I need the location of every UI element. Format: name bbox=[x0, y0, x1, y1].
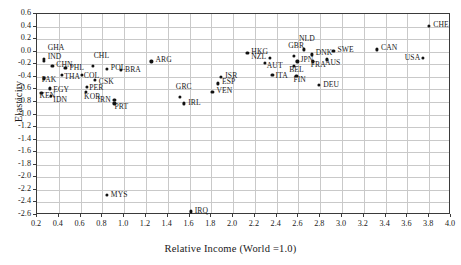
gridline-vertical bbox=[255, 14, 256, 213]
x-axis-tick-label: 1.0 bbox=[118, 219, 128, 229]
gridline-horizontal bbox=[37, 152, 449, 153]
gridline-vertical bbox=[211, 14, 212, 213]
x-axis-tick bbox=[189, 214, 190, 217]
gridline-vertical bbox=[342, 14, 343, 213]
x-axis-tick-label: 3.8 bbox=[423, 219, 433, 229]
data-point-label: CHL bbox=[94, 52, 110, 60]
gridline-horizontal bbox=[37, 115, 449, 116]
data-point-label: DNK bbox=[316, 49, 333, 57]
x-axis-tick bbox=[254, 214, 255, 217]
x-axis-tick-label: 1.8 bbox=[205, 219, 215, 229]
y-axis-tick bbox=[33, 76, 36, 77]
y-axis-tick-label: -1.0 bbox=[6, 109, 31, 119]
x-axis-tick-label: 0.4 bbox=[53, 219, 63, 229]
y-axis-tick-label: -1.8 bbox=[6, 159, 31, 169]
data-point-label: CHE bbox=[433, 21, 449, 29]
x-axis-tick bbox=[36, 214, 37, 217]
y-axis-tick-label: -0.6 bbox=[6, 83, 31, 93]
gridline-vertical bbox=[320, 14, 321, 213]
data-point-label: AUS bbox=[325, 59, 341, 67]
gridline-horizontal bbox=[37, 177, 449, 178]
x-axis-title: Relative Income (World =1.0) bbox=[0, 243, 461, 254]
gridline-horizontal bbox=[37, 127, 449, 128]
data-point-label: PHL bbox=[69, 64, 84, 72]
y-axis-tick bbox=[33, 151, 36, 152]
data-point-label: MYS bbox=[111, 191, 128, 199]
y-axis-tick bbox=[33, 139, 36, 140]
gridline-horizontal bbox=[37, 140, 449, 141]
x-axis-tick-label: 2.6 bbox=[292, 219, 302, 229]
data-point-label: NLD bbox=[299, 35, 315, 43]
x-axis-tick-label: 3.4 bbox=[380, 219, 390, 229]
data-point-label: ESP bbox=[222, 78, 235, 86]
data-point-label: NZL bbox=[251, 53, 266, 61]
x-axis-tick bbox=[406, 214, 407, 217]
data-point-label: IRN bbox=[97, 96, 110, 104]
gridline-vertical bbox=[233, 14, 234, 213]
y-axis-tick bbox=[33, 164, 36, 165]
gridline-horizontal bbox=[37, 39, 449, 40]
x-axis-tick bbox=[363, 214, 364, 217]
y-axis-tick bbox=[33, 176, 36, 177]
data-point-label: BEL bbox=[289, 66, 304, 74]
data-point-label: POL bbox=[111, 64, 126, 72]
gridline-horizontal bbox=[37, 190, 449, 191]
x-axis-tick-label: 4.0 bbox=[445, 219, 455, 229]
x-axis-tick-label: 0.2 bbox=[31, 219, 41, 229]
data-point-label: SWE bbox=[337, 46, 353, 54]
data-point-label: GRC bbox=[176, 83, 192, 91]
y-axis-tick-label: 0.2 bbox=[6, 33, 31, 43]
gridline-vertical bbox=[190, 14, 191, 213]
x-axis-tick-label: 2.2 bbox=[249, 219, 259, 229]
gridline-vertical bbox=[168, 14, 169, 213]
gridline-horizontal bbox=[37, 27, 449, 28]
gridline-horizontal bbox=[37, 64, 449, 65]
gridline-vertical bbox=[277, 14, 278, 213]
y-axis-tick bbox=[33, 88, 36, 89]
y-axis-tick-label: -2.0 bbox=[6, 171, 31, 181]
y-axis-tick bbox=[33, 26, 36, 27]
data-point-label: ITA bbox=[275, 72, 287, 80]
gridline-horizontal bbox=[37, 202, 449, 203]
gridline-vertical bbox=[429, 14, 430, 213]
x-axis-tick-label: 0.8 bbox=[96, 219, 106, 229]
data-point-label: FIN bbox=[293, 76, 306, 84]
x-axis-tick-label: 3.2 bbox=[358, 219, 368, 229]
x-axis-tick bbox=[276, 214, 277, 217]
data-point-label: PAK bbox=[42, 76, 57, 84]
data-point-label: PRT bbox=[114, 103, 128, 111]
y-axis-tick-label: -2.4 bbox=[6, 196, 31, 206]
scatter-chart-figure: GHAINDCHNPHLPAKTHACOLCHLPOLBRAARGCSKPERE… bbox=[0, 0, 461, 265]
gridline-vertical bbox=[364, 14, 365, 213]
data-point-label: USA bbox=[405, 54, 421, 62]
y-axis-tick bbox=[33, 38, 36, 39]
data-point-label: IRQ bbox=[195, 207, 208, 215]
data-point-label: BRA bbox=[125, 66, 141, 74]
x-axis-tick-label: 1.4 bbox=[162, 219, 172, 229]
x-axis-tick bbox=[385, 214, 386, 217]
y-axis-tick bbox=[33, 101, 36, 102]
y-axis-tick bbox=[33, 189, 36, 190]
x-axis-tick-label: 3.0 bbox=[336, 219, 346, 229]
data-point-label: PER bbox=[89, 84, 103, 92]
y-axis-tick-label: -2.6 bbox=[6, 209, 31, 219]
x-axis-tick bbox=[80, 214, 81, 217]
y-axis-tick-label: -1.4 bbox=[6, 134, 31, 144]
gridline-vertical bbox=[102, 14, 103, 213]
x-axis-tick-label: 3.6 bbox=[401, 219, 411, 229]
y-axis-tick-label: -0.8 bbox=[6, 96, 31, 106]
gridline-vertical bbox=[146, 14, 147, 213]
gridline-vertical bbox=[407, 14, 408, 213]
data-point-label: THA bbox=[64, 73, 80, 81]
y-axis-tick bbox=[33, 201, 36, 202]
y-axis-tick bbox=[33, 13, 36, 14]
data-point-label: DEU bbox=[323, 81, 339, 89]
y-axis-tick bbox=[33, 63, 36, 64]
y-axis-tick-label: 0.4 bbox=[6, 21, 31, 31]
x-axis-tick bbox=[450, 214, 451, 217]
x-axis-tick-label: 2.0 bbox=[227, 219, 237, 229]
x-axis-tick bbox=[123, 214, 124, 217]
y-axis-tick bbox=[33, 214, 36, 215]
x-axis-tick bbox=[341, 214, 342, 217]
gridline-horizontal bbox=[37, 165, 449, 166]
